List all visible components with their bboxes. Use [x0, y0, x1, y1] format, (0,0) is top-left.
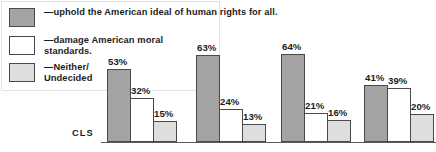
bar-value-label: 20% — [411, 101, 431, 112]
bar-group: 53% 32% 15% — [107, 0, 179, 142]
bar-value-label: 15% — [154, 108, 174, 119]
bar-series-1 — [130, 98, 154, 142]
bar-value-label: 64% — [282, 41, 302, 52]
bar-series-2 — [153, 121, 177, 142]
bar-group: 64% 21% 16% — [281, 0, 353, 142]
plot-area: CLS 53% 32% 15% 63% 24% 13% 64% 21% 16% — [0, 0, 436, 152]
bar-series-2 — [327, 120, 351, 142]
bar-series-1 — [219, 109, 243, 142]
bar-series-0 — [281, 54, 305, 142]
bar-value-label: 16% — [328, 107, 348, 118]
bar-value-label: 13% — [243, 111, 263, 122]
x-axis-baseline — [101, 142, 436, 143]
bar-value-label: 41% — [365, 72, 385, 83]
bar-series-0 — [107, 69, 131, 142]
bar-group: 41% 39% 20% — [364, 0, 436, 142]
bar-group: 63% 24% 13% — [196, 0, 268, 142]
bar-series-2 — [242, 124, 266, 142]
bar-series-0 — [364, 85, 388, 142]
axis-tag-cls: CLS — [72, 128, 94, 138]
bar-series-1 — [387, 88, 411, 142]
bar-value-label: 32% — [131, 85, 151, 96]
bar-value-label: 63% — [197, 42, 217, 53]
bar-value-label: 21% — [305, 100, 325, 111]
bar-value-label: 53% — [108, 56, 128, 67]
bar-value-label: 24% — [220, 96, 240, 107]
bar-series-1 — [304, 113, 328, 142]
bar-chart: —uphold the American ideal of human righ… — [0, 0, 436, 152]
bar-value-label: 39% — [388, 75, 408, 86]
bar-series-2 — [410, 114, 434, 142]
bar-series-0 — [196, 55, 220, 142]
